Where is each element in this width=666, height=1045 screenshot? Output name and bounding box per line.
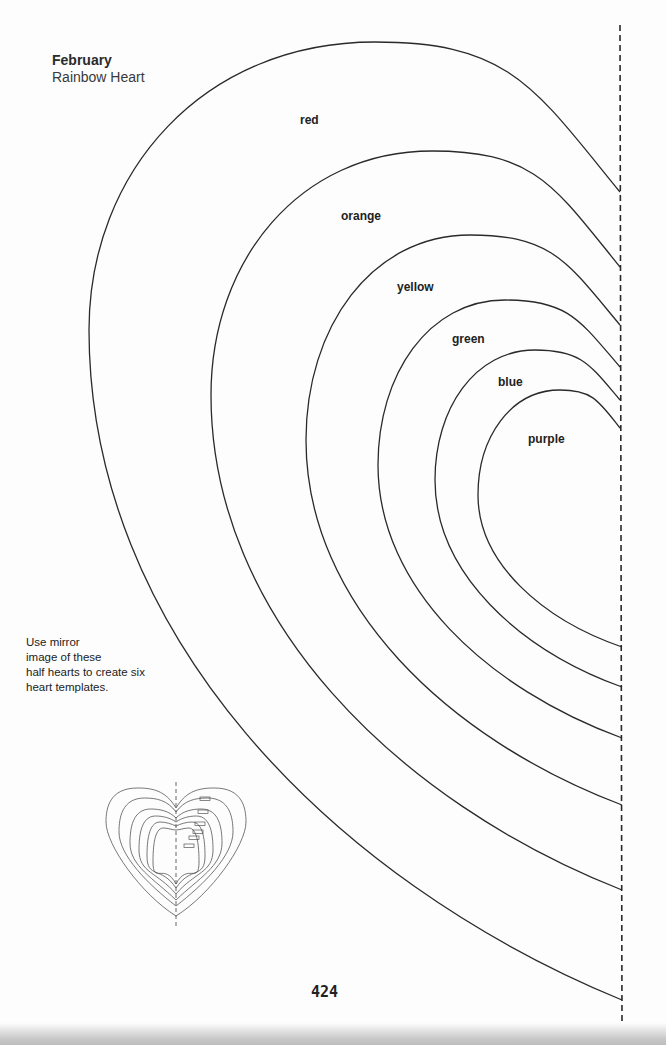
worksheet-page: February Rainbow Heart redorangeyellowgr… (0, 0, 666, 1045)
heart-color-label: yellow (397, 280, 434, 294)
scan-shadow (0, 1023, 666, 1045)
half-heart-templates: redorangeyellowgreenbluepurple (0, 0, 666, 1045)
instruction-line: heart templates. (26, 680, 166, 695)
page-number: 424 (311, 983, 338, 1001)
heart-color-label: red (300, 113, 319, 127)
fold-line (620, 25, 622, 1024)
half-heart-outline-purple (478, 390, 622, 647)
instruction-line: Use mirror (26, 635, 166, 650)
instruction-line: half hearts to create six (26, 665, 166, 680)
heart-color-label: blue (498, 375, 523, 389)
half-heart-outline-orange (211, 151, 622, 890)
instructions: Use mirror image of these half hearts to… (26, 635, 166, 695)
heart-color-label: purple (528, 432, 565, 446)
half-heart-outline-red (89, 42, 622, 1000)
heart-color-label: orange (341, 209, 381, 223)
instruction-line: image of these (26, 650, 166, 665)
heart-color-label: green (452, 332, 485, 346)
half-heart-outline-yellow (306, 235, 622, 805)
